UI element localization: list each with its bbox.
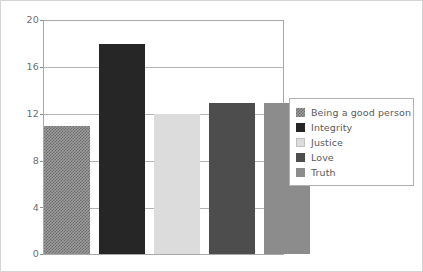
legend-item-label: Love [311,152,334,163]
bar-integrity[interactable] [99,44,145,254]
chart-legend: Being a good person Integrity Justice Lo… [289,98,414,186]
legend-swatch-icon [296,138,305,147]
legend-swatch-icon [296,168,305,177]
legend-item-being-a-good-person[interactable]: Being a good person [296,105,406,119]
legend-item-label: Being a good person [311,107,411,118]
bar-love[interactable] [209,103,255,254]
legend-item-integrity[interactable]: Integrity [296,120,406,134]
y-tick-label-20: 20 [5,15,39,25]
bars-group [43,20,284,255]
legend-swatch-icon [296,108,305,117]
legend-item-label: Integrity [311,122,352,133]
y-tick-label-8: 8 [5,156,39,166]
y-tick-label-16: 16 [5,62,39,72]
legend-swatch-icon [296,153,305,162]
y-tick-label-12: 12 [5,109,39,119]
legend-item-label: Truth [311,167,336,178]
bar-justice[interactable] [154,114,200,254]
legend-item-justice[interactable]: Justice [296,135,406,149]
y-tick-label-4: 4 [5,203,39,213]
legend-item-truth[interactable]: Truth [296,165,406,179]
legend-swatch-icon [296,123,305,132]
legend-item-label: Justice [311,137,343,148]
y-tick-label-0: 0 [5,249,39,259]
legend-item-love[interactable]: Love [296,150,406,164]
y-axis: 20 16 12 8 4 0 [1,1,39,272]
chart-screenshot: 20 16 12 8 4 0 Being a good person [0,0,423,272]
bar-being-a-good-person[interactable] [44,126,90,254]
